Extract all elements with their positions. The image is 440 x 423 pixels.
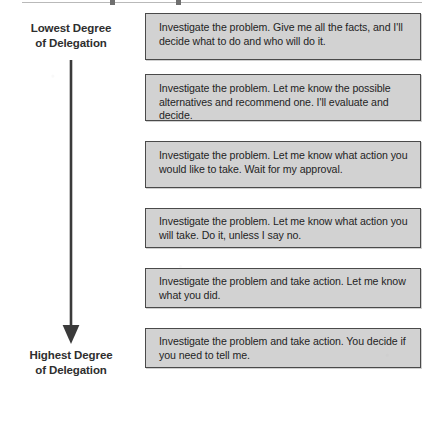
delegation-axis-column: Lowest Degreeof Delegation Highest Degre… bbox=[0, 0, 142, 423]
lowest-degree-label: Lowest Degreeof Delegation bbox=[0, 21, 142, 51]
statement-text: Investigate the problem. Let me know wha… bbox=[146, 142, 420, 182]
statement-box: Investigate the problem. Let me know wha… bbox=[145, 208, 421, 248]
statement-text: Investigate the problem. Let me know wha… bbox=[146, 209, 420, 248]
down-arrow-icon bbox=[62, 60, 80, 345]
statement-box: Investigate the problem. Let me know the… bbox=[145, 74, 421, 121]
statement-box: Investigate the problem and take action.… bbox=[145, 268, 421, 308]
statement-box: Investigate the problem. Let me know wha… bbox=[145, 141, 421, 188]
delegation-statements-column: Investigate the problem. Give me all the… bbox=[145, 0, 421, 423]
statement-box: Investigate the problem and take action.… bbox=[145, 328, 421, 368]
highest-degree-label: Highest Degreeof Delegation bbox=[0, 348, 142, 378]
statement-text: Investigate the problem and take action.… bbox=[146, 329, 420, 368]
statement-box: Investigate the problem. Give me all the… bbox=[145, 13, 421, 60]
statement-text: Investigate the problem. Give me all the… bbox=[146, 14, 420, 54]
statement-text: Investigate the problem and take action.… bbox=[146, 269, 420, 308]
statement-text: Investigate the problem. Let me know the… bbox=[146, 75, 420, 129]
